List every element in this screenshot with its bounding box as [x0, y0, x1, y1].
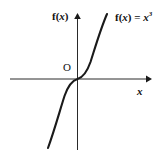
- x-axis-arrowhead-icon: [146, 76, 152, 83]
- curve-label-exponent: 3: [149, 10, 153, 18]
- y-axis-label: f(x): [52, 11, 69, 22]
- x-axis-label: x: [137, 86, 143, 97]
- cubic-function-figure: f(x) f(x) = x3 O x: [0, 0, 159, 156]
- y-axis-arrowhead-icon: [74, 13, 81, 19]
- origin-label: O: [63, 62, 71, 73]
- curve-label-mid: ) =: [128, 11, 143, 23]
- curve-equation-label: f(x) = x3: [115, 11, 152, 23]
- graph-canvas: [0, 0, 159, 156]
- y-axis-label-suffix: ): [65, 10, 69, 22]
